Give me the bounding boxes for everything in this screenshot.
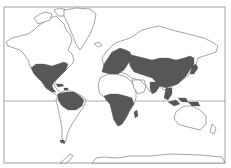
range-indonesia <box>168 98 200 106</box>
land-new-zealand <box>210 124 216 134</box>
land-north-america <box>6 16 74 96</box>
world-map <box>0 0 231 168</box>
range-caribbean <box>56 84 68 90</box>
land-australia <box>174 106 206 130</box>
land-antarctica <box>92 154 225 163</box>
range-africa <box>104 94 134 126</box>
range-india <box>150 82 160 94</box>
land-outlines <box>6 8 225 163</box>
map-canvas <box>0 0 231 168</box>
range-south-america-tip <box>60 140 65 143</box>
range-madagascar <box>134 110 138 118</box>
land-antarctic-peninsula <box>60 154 73 163</box>
land-iceland <box>94 42 102 47</box>
range-north-america <box>31 62 68 92</box>
